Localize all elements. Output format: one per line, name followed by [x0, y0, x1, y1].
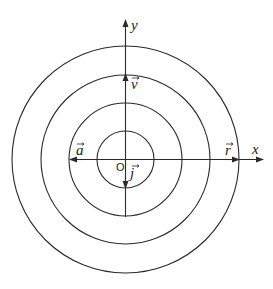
- origin-label: O: [116, 161, 125, 173]
- vector-j-label-group: j: [128, 165, 139, 182]
- diagram-canvas: y x O v a r j: [0, 0, 273, 289]
- vector-a-label-group: a: [76, 142, 84, 158]
- y-axis-label: y: [129, 17, 138, 33]
- x-axis-label: x: [251, 141, 259, 157]
- vector-j-label: j: [128, 165, 134, 181]
- vector-v-label-group: v: [131, 76, 139, 92]
- vector-r-label-group: r: [225, 142, 233, 158]
